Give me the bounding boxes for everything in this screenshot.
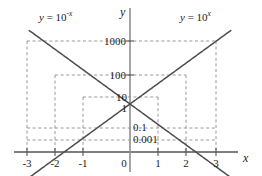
curve-label-right-base: 10 xyxy=(197,11,208,23)
curve-label-left-eq: = xyxy=(44,11,56,23)
x-tick-label--1: -1 xyxy=(78,158,87,169)
curve-label-right: y = 10x xyxy=(180,12,211,23)
y-value-label-1: 1 xyxy=(122,103,128,114)
curve-label-left-base: 10 xyxy=(56,11,67,23)
x-tick-label--3: -3 xyxy=(22,158,31,169)
x-tick-label-0: 0 xyxy=(121,158,127,169)
y-value-label-0.001: 0.001 xyxy=(133,134,158,145)
x-axis-label: x xyxy=(243,152,248,164)
curve-label-right-exponent: x xyxy=(208,9,211,18)
y-value-label-1000: 1000 xyxy=(104,36,126,47)
x-tick-label-2: 2 xyxy=(183,158,189,169)
x-tick-label-3: 3 xyxy=(213,158,219,169)
curve-label-right-eq: = xyxy=(185,11,197,23)
graph-canvas xyxy=(0,0,262,176)
log-exponential-graph-figure: y = 10-x y = 10x y x 1000 100 10 1 0.1 0… xyxy=(0,0,262,176)
y-value-label-100: 100 xyxy=(110,70,127,81)
y-value-label-0.1: 0.1 xyxy=(133,122,147,133)
y-axis-label: y xyxy=(120,6,125,18)
curve-label-left: y = 10-x xyxy=(39,12,72,23)
x-tick-label--2: -2 xyxy=(50,158,59,169)
curve-label-left-exponent: -x xyxy=(67,9,73,18)
x-tick-label-1: 1 xyxy=(155,158,161,169)
